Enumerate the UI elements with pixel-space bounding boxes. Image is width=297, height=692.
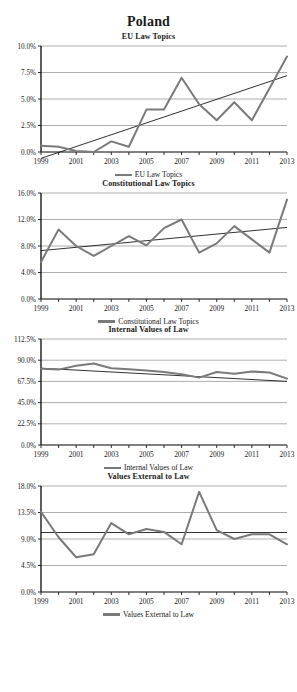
legend-swatch-icon — [98, 320, 115, 323]
y-tick-label: 4.0% — [21, 269, 36, 277]
y-tick-label: 22.5% — [17, 421, 36, 429]
chart-legend-0: EU Law Topics — [0, 171, 297, 179]
x-tick-label: 1999 — [34, 303, 49, 312]
x-tick-label: 2009 — [209, 157, 224, 166]
x-tick-label: 2001 — [69, 157, 84, 166]
x-tick-label: 2003 — [104, 450, 119, 459]
x-tick-label: 2007 — [174, 596, 189, 605]
x-tick-label: 1999 — [34, 450, 49, 459]
chart-title: EU Law Topics — [0, 32, 297, 41]
x-tick-label: 2011 — [245, 450, 260, 459]
y-tick-label: 0.0% — [21, 588, 36, 596]
x-tick-label: 2013 — [280, 303, 295, 312]
chart-title: Values External to Law — [0, 472, 297, 481]
data-series-line — [41, 492, 287, 557]
plot-area-2: 0.0%22.5%45.0%67.5%90.0%112.5%1999200120… — [0, 335, 297, 463]
legend-label: EU Law Topics — [135, 171, 182, 179]
x-tick-label: 2001 — [69, 303, 84, 312]
plot-area-1: 0.0%4.0%8.0%12.0%16.0%199920012003200520… — [0, 189, 297, 317]
x-tick-label: 2011 — [245, 157, 260, 166]
x-tick-label: 2007 — [174, 303, 189, 312]
x-tick-label: 2003 — [104, 596, 119, 605]
chart-svg: 0.0%4.0%8.0%12.0%16.0%199920012003200520… — [0, 189, 297, 317]
legend-label: Values External to Law — [123, 611, 194, 619]
chart-panel-0: EU Law Topics 0.0%2.5%5.0%7.5%10.0%19992… — [0, 32, 297, 179]
chart-svg: 0.0%4.5%9.0%13.5%18.0%199920012003200520… — [0, 482, 297, 610]
legend-label: Internal Values of Law — [124, 464, 193, 472]
data-series-line — [41, 364, 287, 379]
legend-label: Constitutional Law Topics — [118, 318, 198, 326]
y-tick-label: 4.5% — [21, 562, 36, 570]
chart-legend-1: Constitutional Law Topics — [0, 318, 297, 326]
x-tick-label: 2011 — [245, 303, 260, 312]
y-tick-label: 0.0% — [21, 149, 36, 157]
page-title: Poland — [0, 14, 297, 30]
x-tick-label: 2007 — [174, 157, 189, 166]
x-tick-label: 2009 — [209, 303, 224, 312]
trend-line — [41, 368, 287, 381]
y-tick-label: 112.5% — [14, 336, 36, 344]
x-tick-label: 2001 — [69, 596, 84, 605]
y-tick-label: 0.0% — [21, 295, 36, 303]
chart-legend-2: Internal Values of Law — [0, 464, 297, 472]
chart-title: Constitutional Law Topics — [0, 179, 297, 188]
legend-swatch-icon — [104, 467, 121, 470]
plot-area-0: 0.0%2.5%5.0%7.5%10.0%1999200120032005200… — [0, 42, 297, 170]
chart-svg: 0.0%22.5%45.0%67.5%90.0%112.5%1999200120… — [0, 335, 297, 463]
y-tick-label: 0.0% — [21, 442, 36, 450]
x-tick-label: 1999 — [34, 596, 49, 605]
x-tick-label: 2013 — [280, 157, 295, 166]
x-tick-label: 2005 — [139, 596, 154, 605]
chart-page: Poland EU Law Topics 0.0%2.5%5.0%7.5%10.… — [0, 14, 297, 692]
y-tick-label: 90.0% — [17, 357, 36, 365]
y-tick-label: 45.0% — [17, 399, 36, 407]
data-series-line — [41, 57, 287, 152]
x-tick-label: 2013 — [280, 596, 295, 605]
y-tick-label: 2.5% — [21, 122, 36, 130]
y-tick-label: 67.5% — [17, 378, 36, 386]
plot-area-3: 0.0%4.5%9.0%13.5%18.0%199920012003200520… — [0, 482, 297, 610]
x-tick-label: 2009 — [209, 450, 224, 459]
x-tick-label: 2005 — [139, 157, 154, 166]
legend-swatch-icon — [103, 613, 120, 616]
y-tick-label: 7.5% — [21, 69, 36, 77]
chart-panel-2: Internal Values of Law 0.0%22.5%45.0%67.… — [0, 325, 297, 472]
x-tick-label: 2005 — [139, 303, 154, 312]
x-tick-label: 2003 — [104, 157, 119, 166]
y-tick-label: 8.0% — [21, 242, 36, 250]
chart-panel-1: Constitutional Law Topics 0.0%4.0%8.0%12… — [0, 179, 297, 326]
x-tick-label: 2003 — [104, 303, 119, 312]
y-tick-label: 10.0% — [17, 43, 36, 51]
y-tick-label: 13.5% — [17, 509, 36, 517]
y-tick-label: 18.0% — [17, 482, 36, 490]
y-tick-label: 16.0% — [17, 189, 36, 197]
chart-svg: 0.0%2.5%5.0%7.5%10.0%1999200120032005200… — [0, 42, 297, 170]
legend-swatch-icon — [115, 174, 132, 177]
x-tick-label: 2001 — [69, 450, 84, 459]
x-tick-label: 2011 — [245, 596, 260, 605]
x-tick-label: 2007 — [174, 450, 189, 459]
chart-legend-3: Values External to Law — [0, 611, 297, 619]
x-tick-label: 2013 — [280, 450, 295, 459]
x-tick-label: 2009 — [209, 596, 224, 605]
y-tick-label: 5.0% — [21, 96, 36, 104]
chart-title: Internal Values of Law — [0, 325, 297, 334]
y-tick-label: 9.0% — [21, 535, 36, 543]
x-tick-label: 2005 — [139, 450, 154, 459]
y-tick-label: 12.0% — [17, 216, 36, 224]
chart-panel-3: Values External to Law 0.0%4.5%9.0%13.5%… — [0, 472, 297, 619]
